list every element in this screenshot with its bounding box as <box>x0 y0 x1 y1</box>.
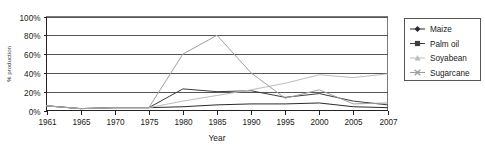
x-axis-tick-label: 1990 <box>242 118 261 127</box>
y-axis-tick-label: 40% <box>24 70 40 79</box>
x-axis-tick-label: 2005 <box>344 118 363 127</box>
y-axis-tick-label: 0% <box>29 108 41 117</box>
y-axis-tick-label: 20% <box>24 89 40 98</box>
legend-label-sugarcane: Sugarcane <box>430 69 470 78</box>
x-axis-tick-label: 2007 <box>379 118 398 127</box>
x-axis-tick-label: 2000 <box>310 118 329 127</box>
legend-marker-square-icon <box>415 41 420 46</box>
x-axis-tick-labels: 1961196519701975198019851990199520002005… <box>38 118 398 127</box>
x-axis-tick-label: 1995 <box>276 118 295 127</box>
y-axis-tick-label: 100% <box>20 14 41 23</box>
series-lines-group <box>47 35 388 108</box>
legend-label-soyabean: Soyabean <box>430 54 467 63</box>
series-line-palm-oil <box>47 89 388 109</box>
chart-container: 0%20%40%60%80%100% 196119651970197519801… <box>0 0 485 149</box>
y-axis-title: % production <box>5 45 12 82</box>
line-chart: 0%20%40%60%80%100% 196119651970197519801… <box>0 0 485 149</box>
y-axis-tick-label: 80% <box>24 32 40 41</box>
x-axis-tick-label: 1975 <box>140 118 159 127</box>
x-axis-tick-label: 1965 <box>72 118 91 127</box>
y-axis-tick-labels: 0%20%40%60%80%100% <box>20 14 41 117</box>
x-axis-tick-marks <box>48 111 389 115</box>
legend-label-maize: Maize <box>430 25 452 34</box>
x-axis-tick-label: 1980 <box>174 118 193 127</box>
legend-label-palm-oil: Palm oil <box>430 40 459 49</box>
y-axis-tick-label: 60% <box>24 51 40 60</box>
x-axis-tick-label: 1985 <box>208 118 227 127</box>
x-axis-tick-label: 1961 <box>38 118 57 127</box>
x-axis-title: Year <box>209 133 226 143</box>
x-axis-tick-label: 1970 <box>106 118 125 127</box>
